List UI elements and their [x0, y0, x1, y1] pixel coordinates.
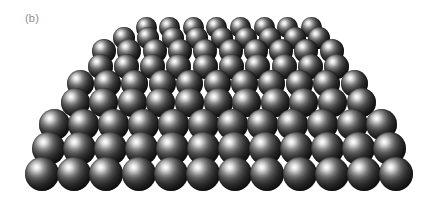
lattice-sphere [250, 157, 284, 191]
lattice-sphere [122, 157, 156, 191]
lattice-sphere [283, 157, 317, 191]
lattice-sphere [89, 157, 123, 191]
figure-container: (b) [0, 0, 434, 198]
lattice-sphere [154, 157, 188, 191]
sphere-lattice-illustration [0, 0, 434, 198]
lattice-sphere [379, 157, 413, 191]
lattice-sphere [347, 157, 381, 191]
lattice-sphere [186, 157, 220, 191]
lattice-sphere [218, 157, 252, 191]
lattice-sphere [57, 157, 91, 191]
lattice-sphere [315, 157, 349, 191]
lattice-sphere [25, 157, 59, 191]
